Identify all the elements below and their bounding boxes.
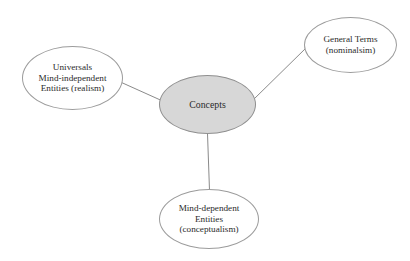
node-concepts-label: Concepts <box>189 99 225 111</box>
node-layer: Universals Mind-independent Entities (re… <box>0 0 410 261</box>
node-general-terms[interactable]: General Terms (nominalsim) <box>304 17 397 73</box>
node-mind-dependent-line-1: Mind-dependent <box>179 203 240 214</box>
node-universals-line-3: Entities (realism) <box>41 83 105 94</box>
node-universals[interactable]: Universals Mind-independent Entities (re… <box>22 46 123 110</box>
node-universals-line-2: Mind-independent <box>39 73 107 84</box>
node-mind-dependent[interactable]: Mind-dependent Entities (conceptualism) <box>159 189 259 249</box>
node-general-terms-line-2: (nominalsim) <box>326 45 376 56</box>
node-universals-line-1: Universals <box>53 62 92 73</box>
node-general-terms-line-1: General Terms <box>323 34 377 45</box>
node-concepts[interactable]: Concepts <box>159 75 256 134</box>
concept-map-diagram: Universals Mind-independent Entities (re… <box>0 0 410 261</box>
node-mind-dependent-line-3: (conceptualism) <box>179 224 238 235</box>
node-mind-dependent-line-2: Entities <box>195 214 223 225</box>
